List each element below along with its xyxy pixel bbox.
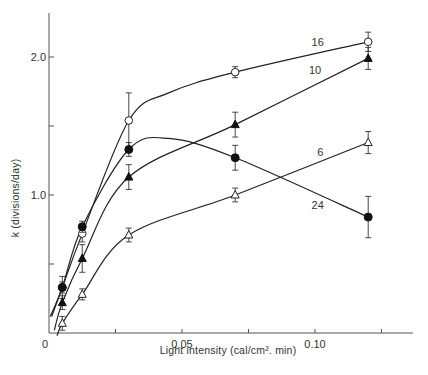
y-tick-label: 2.0 (31, 51, 46, 63)
open-triangle-marker (125, 231, 133, 239)
data-point (231, 188, 239, 202)
series-curve-6 (57, 143, 368, 336)
data-point (231, 67, 239, 78)
series-curve-10 (54, 58, 368, 330)
filled-circle-marker (364, 213, 372, 221)
series-label-6: 6 (317, 146, 323, 158)
series-curve-24 (50, 137, 368, 316)
data-point (231, 112, 239, 137)
line-chart: 00.050.101.02.0 1610246 Light intensity … (0, 0, 428, 375)
open-triangle-marker (364, 138, 372, 146)
filled-circle-marker (58, 283, 66, 291)
data-point (58, 282, 66, 293)
data-point (364, 132, 372, 154)
series-label-16: 16 (312, 36, 324, 48)
data-point (364, 196, 372, 237)
filled-triangle-marker (58, 298, 66, 306)
data-point (78, 245, 86, 273)
filled-circle-marker (78, 223, 86, 231)
y-axis-label: k (divisions/day) (9, 159, 21, 238)
open-circle-marker (364, 38, 372, 46)
x-axis-label: Light intensity (cal/cm². min) (160, 344, 297, 356)
filled-triangle-marker (364, 54, 372, 62)
series-curve-16 (52, 42, 369, 317)
data-point (125, 143, 133, 157)
x-tick-label: 0 (42, 338, 48, 350)
series-curves (50, 42, 368, 336)
data-point (231, 145, 239, 170)
data-point (364, 47, 372, 69)
data-point (58, 296, 66, 310)
series-labels: 1610246 (309, 36, 324, 211)
data-point (125, 165, 133, 190)
filled-circle-marker (125, 145, 133, 153)
data-point (125, 228, 133, 242)
series-label-10: 10 (309, 64, 321, 76)
filled-triangle-marker (78, 254, 86, 262)
x-tick-label: 0.10 (304, 338, 325, 350)
open-circle-marker (125, 117, 133, 125)
y-tick-label: 1.0 (31, 189, 46, 201)
open-circle-marker (231, 68, 239, 76)
data-point (125, 93, 133, 148)
axes: 00.050.101.02.0 (31, 13, 413, 350)
series-label-24: 24 (312, 199, 324, 211)
filled-circle-marker (231, 154, 239, 162)
filled-triangle-marker (125, 173, 133, 181)
